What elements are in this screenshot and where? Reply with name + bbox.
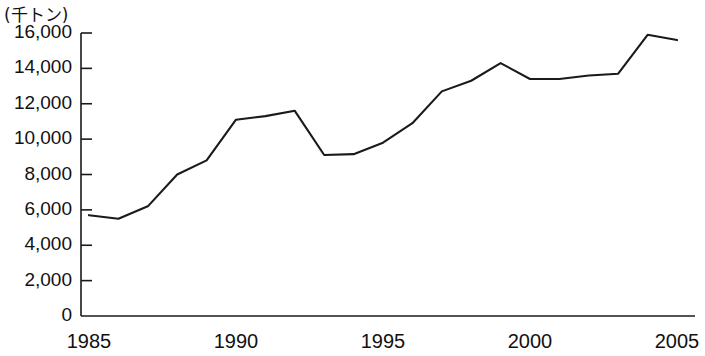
line-chart: (千トン) 02,0004,0006,0008,00010,00012,0001… xyxy=(0,0,705,356)
data-line xyxy=(89,35,677,219)
data-series-group xyxy=(89,35,677,219)
plot-area xyxy=(0,0,705,356)
